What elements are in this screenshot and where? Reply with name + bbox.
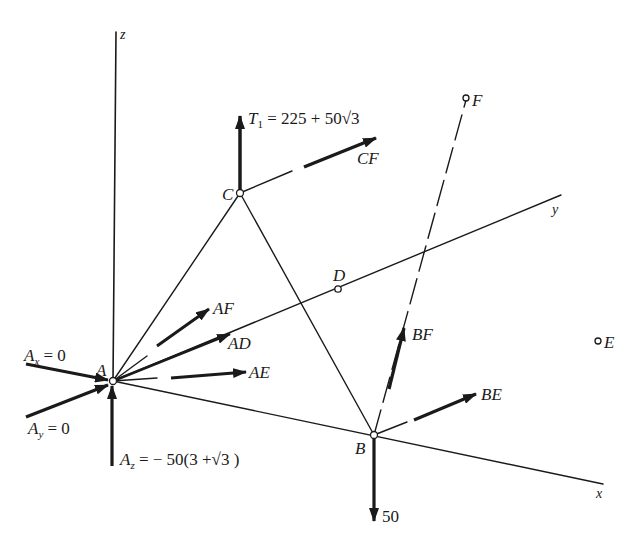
cf-line-thin: [240, 171, 292, 193]
joint-B: [371, 432, 378, 439]
force-label-AE: AE: [249, 364, 270, 381]
ax-expression: = 0: [44, 346, 66, 365]
force-Ay-arrow: [26, 385, 108, 417]
joint-C: [237, 190, 244, 197]
be-stub: [374, 422, 407, 435]
az-symbol: A: [120, 450, 130, 469]
force-label-BE: BE: [481, 386, 502, 403]
force-label-Ay: Ay = 0: [28, 420, 70, 440]
force-label-T1: T1 = 225 + 50√3: [248, 110, 359, 130]
force-AE-arrow: [171, 372, 246, 378]
point-label-E: E: [604, 334, 614, 351]
force-BE-arrow: [414, 394, 476, 420]
ay-subscript: y: [38, 428, 43, 440]
y-axis-label: y: [552, 203, 558, 217]
z-axis-label: z: [120, 28, 125, 42]
force-label-AD: AD: [228, 335, 251, 352]
force-AF-arrow: [157, 309, 209, 346]
ax-subscript: x: [34, 355, 39, 367]
force-label-Ax: Ax = 0: [24, 347, 66, 367]
t1-expression: = 225 + 50√3: [267, 109, 359, 128]
point-label-A: A: [96, 362, 106, 379]
member-CB: [240, 193, 374, 435]
point-E: [595, 338, 601, 344]
point-F: [463, 95, 469, 101]
diagram-lines: [0, 0, 643, 550]
truss-diagram: z y x A C B D E F T1 = 225 + 50√3 CF AF …: [0, 0, 643, 550]
z-axis: [113, 32, 116, 381]
point-label-B: B: [355, 440, 365, 457]
force-label-Az: Az = − 50(3 +√3 ): [120, 451, 239, 471]
force-label-CF: CF: [357, 150, 379, 167]
ax-symbol: A: [24, 346, 34, 365]
ay-expression: = 0: [48, 419, 70, 438]
ay-symbol: A: [28, 419, 38, 438]
force-label-AF: AF: [213, 300, 234, 317]
load-label-50: 50: [382, 508, 399, 525]
point-label-F: F: [472, 92, 482, 109]
member-AC: [113, 193, 240, 381]
force-label-BF: BF: [412, 326, 433, 343]
point-D: [335, 286, 341, 292]
x-axis-label: x: [596, 487, 602, 501]
point-label-D: D: [333, 267, 345, 284]
t1-subscript: 1: [257, 118, 263, 130]
point-label-C: C: [222, 186, 233, 203]
az-subscript: z: [130, 459, 134, 471]
joint-A: [110, 378, 117, 385]
az-expression: = − 50(3 +√3 ): [139, 450, 239, 469]
force-BF-arrow: [389, 328, 404, 389]
